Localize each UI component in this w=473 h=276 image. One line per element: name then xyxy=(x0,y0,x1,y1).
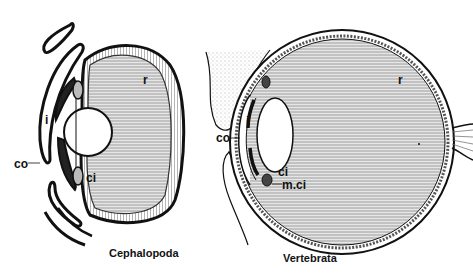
vertebrate-eye xyxy=(206,30,473,254)
label-retina-cephalopod: r xyxy=(143,74,148,86)
label-ciliary-muscle-vertebrate: m.ci xyxy=(282,179,306,191)
cephalopod-eye xyxy=(28,24,184,245)
label-iris-cephalopod: i xyxy=(45,114,48,126)
label-cornea-vertebrate: co xyxy=(216,132,230,144)
label-iris-vertebrate: i xyxy=(246,115,249,127)
label-ciliary-vertebrate: ci xyxy=(278,166,288,178)
label-ciliary-cephalopod: ci xyxy=(86,172,96,184)
label-retina-vertebrate: r xyxy=(398,74,403,86)
eye-comparison-diagram xyxy=(0,0,473,276)
caption-cephalopoda: Cephalopoda xyxy=(109,248,179,259)
caption-vertebrata: Vertebrata xyxy=(283,253,337,264)
label-cornea-cephalopod: co xyxy=(14,158,28,170)
